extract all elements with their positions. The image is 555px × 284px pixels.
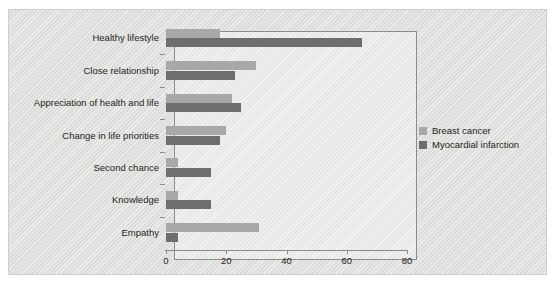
legend-swatch-icon — [419, 127, 427, 135]
x-axis-tick-label: 60 — [341, 255, 352, 266]
bar-breast-cancer-change-in-life-priorities — [166, 126, 226, 135]
y-axis-tick — [160, 152, 165, 153]
y-axis-label-change-in-life-priorities: Change in life priorities — [62, 131, 159, 141]
y-axis-category-labels: Healthy lifestyleClose relationshipAppre… — [0, 22, 159, 249]
bar-series-container — [166, 22, 407, 249]
y-axis-label-close-relationship: Close relationship — [83, 66, 159, 76]
x-axis-tick-label: 40 — [281, 255, 292, 266]
x-axis-tick — [347, 250, 348, 254]
y-axis-label-second-chance: Second chance — [94, 163, 160, 173]
legend-item-breast-cancer: Breast cancer — [419, 124, 544, 137]
bar-myocardial-infarction-empathy — [166, 233, 178, 242]
bar-myocardial-infarction-close-relationship — [166, 71, 235, 80]
bar-myocardial-infarction-appreciation-of-health-and-life — [166, 103, 241, 112]
y-axis-label-empathy: Empathy — [122, 228, 160, 238]
bar-myocardial-infarction-second-chance — [166, 168, 211, 177]
y-axis-label-healthy-lifestyle: Healthy lifestyle — [92, 33, 159, 43]
bar-myocardial-infarction-healthy-lifestyle — [166, 38, 362, 47]
x-axis-tick — [407, 250, 408, 254]
x-axis-tick — [287, 250, 288, 254]
x-axis-tick-label: 0 — [163, 255, 168, 266]
y-axis-label-appreciation-of-health-and-life: Appreciation of health and life — [34, 98, 159, 108]
bar-breast-cancer-knowledge — [166, 191, 178, 200]
bar-breast-cancer-close-relationship — [166, 61, 256, 70]
bar-myocardial-infarction-knowledge — [166, 200, 211, 209]
chart-figure: Healthy lifestyleClose relationshipAppre… — [0, 0, 555, 284]
legend-item-myocardial-infarction: Myocardial infarction — [419, 138, 544, 151]
y-axis-tick — [160, 119, 165, 120]
chart-legend: Breast cancerMyocardial infarction — [419, 124, 544, 152]
bar-myocardial-infarction-change-in-life-priorities — [166, 136, 220, 145]
legend-label: Breast cancer — [432, 125, 491, 136]
y-axis-tick — [160, 87, 165, 88]
x-axis-tick-label: 80 — [402, 255, 413, 266]
y-axis-tick — [160, 217, 165, 218]
x-axis-tick-label: 20 — [221, 255, 232, 266]
x-axis-tick — [226, 250, 227, 254]
y-axis-label-knowledge: Knowledge — [112, 195, 159, 205]
legend-swatch-icon — [419, 141, 427, 149]
bar-breast-cancer-empathy — [166, 223, 259, 232]
bar-breast-cancer-appreciation-of-health-and-life — [166, 94, 232, 103]
bar-breast-cancer-healthy-lifestyle — [166, 29, 220, 38]
legend-label: Myocardial infarction — [432, 139, 519, 150]
x-axis-tick — [166, 250, 167, 254]
y-axis-tick — [160, 54, 165, 55]
y-axis-tick — [160, 184, 165, 185]
bar-breast-cancer-second-chance — [166, 158, 178, 167]
